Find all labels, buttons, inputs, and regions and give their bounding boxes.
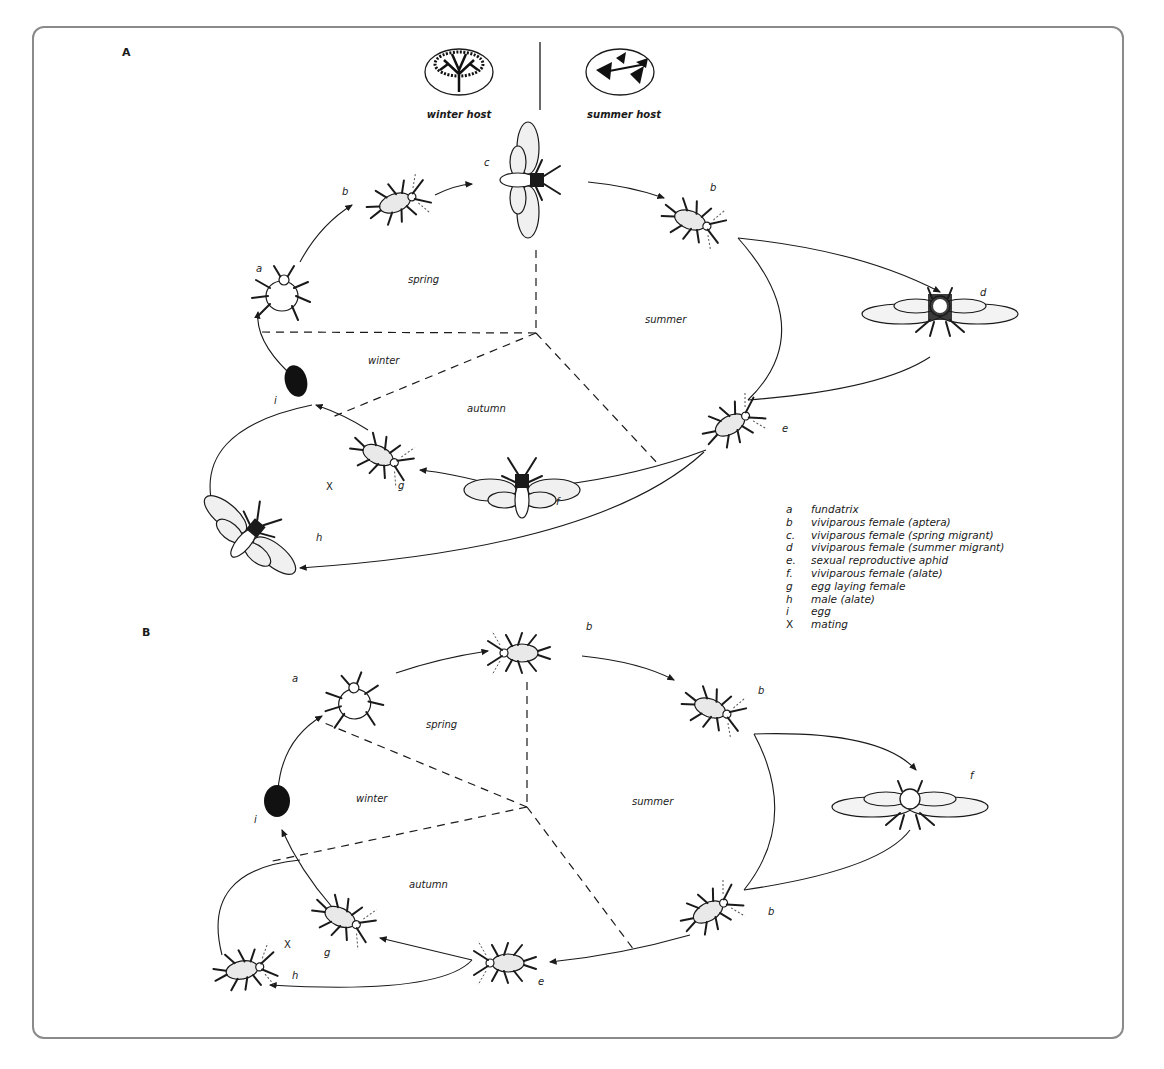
label-c: c (484, 157, 490, 168)
legend-key: h (786, 593, 811, 606)
legend-text: viviparous female (spring migrant) (811, 529, 994, 542)
legend-item: dviviparous female (summer migrant) (786, 541, 1004, 554)
legend-item: Xmating (786, 618, 1004, 631)
legend-key: a (786, 503, 811, 516)
label-h: h (316, 532, 322, 543)
label-b-h: h (292, 970, 298, 981)
panel-a-label: A (122, 46, 131, 59)
summer-host-label: summer host (587, 109, 662, 120)
legend-text: viviparous female (summer migrant) (811, 541, 1004, 554)
summer-migrant-icon (862, 288, 1018, 336)
legend-text: egg (811, 605, 831, 618)
season-spring-a: spring (408, 274, 439, 285)
cycle-arrows-b (218, 651, 916, 987)
label-b-a: a (292, 673, 298, 684)
label-b-f: f (970, 770, 975, 781)
fundatrix-icon (252, 266, 310, 320)
season-spring-b: spring (426, 719, 457, 730)
legend-item: c.viviparous female (spring migrant) (786, 529, 1004, 542)
label-b-b3: b (768, 906, 774, 917)
label-b-i: i (254, 814, 257, 825)
legend-text: viviparous female (alate) (811, 567, 943, 580)
alate-female-b-icon (832, 781, 988, 829)
legend-text: sexual reproductive aphid (811, 554, 948, 567)
label-b: b (342, 186, 348, 197)
winter-host-label: winter host (427, 109, 493, 120)
legend-text: mating (811, 618, 848, 631)
egg-icon (281, 363, 311, 400)
legend-item: e.sexual reproductive aphid (786, 554, 1004, 567)
label-a: a (256, 263, 262, 274)
legend-key: e. (786, 554, 811, 567)
alate-female-icon (464, 458, 580, 518)
legend-key: d (786, 541, 811, 554)
legend-item: bviviparous female (aptera) (786, 516, 1004, 529)
season-autumn-b: autumn (409, 879, 448, 890)
aptera-summer-icon (656, 190, 729, 253)
season-winter-a: winter (368, 355, 400, 366)
aptera-b3-icon (673, 876, 749, 945)
season-autumn-a: autumn (467, 403, 506, 414)
label-e: e (782, 423, 788, 434)
season-dividers-a (258, 250, 660, 466)
panel-b-label: B (142, 626, 150, 639)
aptera-b2-icon (676, 678, 749, 741)
legend-key: f. (786, 567, 811, 580)
label-b-e: e (538, 976, 544, 987)
legend-key: X (786, 618, 811, 631)
season-summer-a: summer (645, 314, 687, 325)
label-mating: X (326, 481, 333, 492)
season-winter-b: winter (356, 793, 388, 804)
label-b-mating: X (284, 939, 291, 950)
legend-text: viviparous female (aptera) (811, 516, 951, 529)
winter-host-icon (425, 49, 493, 95)
legend-item: afundatrix (786, 503, 1004, 516)
label-b-b1: b (586, 621, 592, 632)
legend-item: hmale (alate) (786, 593, 1004, 606)
label-b-b2: b (758, 685, 764, 696)
label-d: d (980, 287, 987, 298)
spring-migrant-icon (500, 122, 560, 238)
legend-key: b (786, 516, 811, 529)
legend-item: iegg (786, 605, 1004, 618)
legend: afundatrix bviviparous female (aptera) c… (786, 503, 1004, 631)
egg-laying-female-b-icon (305, 885, 380, 951)
legend-text: fundatrix (811, 503, 859, 516)
season-summer-b: summer (632, 796, 674, 807)
legend-key: g (786, 580, 811, 593)
label-i: i (274, 395, 277, 406)
legend-text: male (alate) (811, 593, 875, 606)
summer-host-icon (586, 49, 654, 95)
egg-b-icon (264, 785, 290, 817)
aptera-icon (361, 171, 434, 234)
fundatrix-b-icon (320, 670, 386, 733)
legend-key: i (786, 605, 811, 618)
male-alate-icon (188, 473, 315, 594)
legend-item: f.viviparous female (alate) (786, 567, 1004, 580)
sexual-reproductive-b-icon (474, 941, 536, 985)
legend-item: gegg laying female (786, 580, 1004, 593)
legend-key: c. (786, 529, 811, 542)
legend-text: egg laying female (811, 580, 905, 593)
label-g: g (398, 480, 404, 491)
label-b-summer: b (710, 182, 716, 193)
label-b-g: g (324, 947, 330, 958)
aptera-b1-icon (488, 631, 550, 675)
egg-laying-female-icon (343, 423, 418, 489)
